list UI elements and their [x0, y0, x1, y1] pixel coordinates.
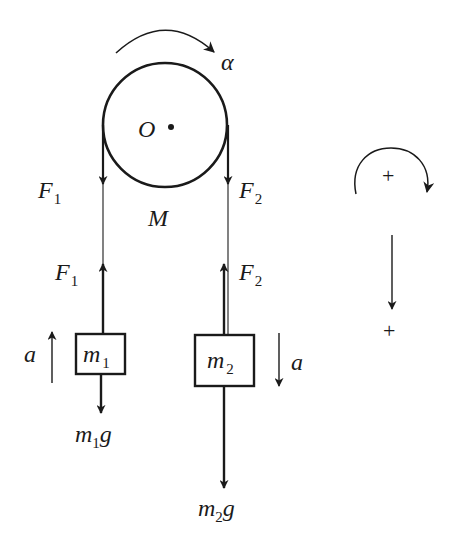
block-m2	[195, 335, 254, 386]
left-tension-top-label: F1	[37, 177, 61, 207]
right-tension-bottom-label: F2	[238, 259, 262, 289]
linear-plus-sign: +	[383, 318, 395, 343]
rotation-plus-sign: +	[382, 163, 394, 188]
pulley-disk	[103, 63, 227, 187]
left-acceleration-label: a	[24, 341, 36, 367]
weight-m1-label: m1g	[75, 421, 112, 451]
right-acceleration-label: a	[291, 349, 303, 375]
pulley-center-label: O	[138, 116, 155, 142]
weight-m2-label: m2g	[198, 495, 235, 525]
alpha-label: α	[221, 49, 234, 75]
angular-acceleration-arrow	[116, 30, 214, 53]
atwood-diagram: α O M F1 F1 m1 m1g a F2 F2 m2 m2g a + +	[0, 0, 457, 541]
pulley-axle-dot	[168, 124, 174, 130]
pulley-mass-label: M	[147, 205, 170, 231]
left-tension-bottom-label: F1	[54, 259, 78, 289]
right-tension-top-label: F2	[238, 177, 262, 207]
